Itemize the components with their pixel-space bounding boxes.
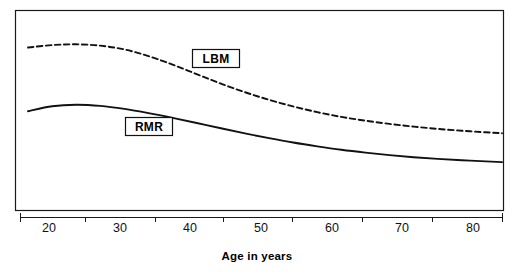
x-tick-label-70: 70 bbox=[395, 221, 409, 235]
x-tick-label-80: 80 bbox=[466, 221, 480, 235]
plot-frame bbox=[16, 11, 504, 211]
series-label-rmr-text: RMR bbox=[135, 120, 163, 134]
x-axis-title: Age in years bbox=[222, 250, 293, 262]
chart-canvas: 20 30 40 50 60 70 80 Age in years LBM RM… bbox=[0, 0, 515, 278]
series-label-rmr: RMR bbox=[126, 118, 173, 136]
series-label-lbm-text: LBM bbox=[203, 52, 230, 66]
x-tick-label-30: 30 bbox=[113, 221, 127, 235]
x-tick-label-60: 60 bbox=[325, 221, 339, 235]
x-tick-label-20: 20 bbox=[42, 221, 56, 235]
series-label-lbm: LBM bbox=[193, 50, 240, 68]
x-tick-label-50: 50 bbox=[254, 221, 268, 235]
chart-figure: 20 30 40 50 60 70 80 Age in years LBM RM… bbox=[0, 0, 515, 278]
x-tick-labels: 20 30 40 50 60 70 80 bbox=[42, 221, 480, 235]
x-tick-label-40: 40 bbox=[183, 221, 197, 235]
